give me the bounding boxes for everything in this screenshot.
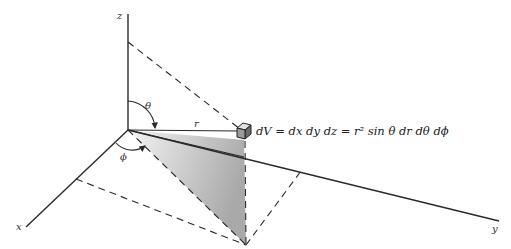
z-axis-label: z — [116, 10, 123, 21]
radius-label: r — [194, 118, 200, 129]
y-axis-label: y — [491, 223, 498, 234]
x-axis — [26, 130, 128, 227]
radius-line — [128, 130, 238, 131]
phi-arc — [116, 143, 145, 150]
phi-label: ϕ — [120, 151, 127, 162]
volume-element-cube-icon — [237, 123, 251, 139]
dashed-z-to-point — [128, 42, 240, 129]
theta-label: θ — [145, 100, 151, 111]
dashed-y-projection — [246, 171, 301, 245]
spherical-coordinates-diagram: z x y θ ϕ r dV = dx dy dz = r² sin θ dr … — [0, 0, 511, 249]
volume-element-equation: dV = dx dy dz = r² sin θ dr dθ dϕ — [256, 124, 449, 138]
x-axis-label: x — [16, 221, 22, 232]
